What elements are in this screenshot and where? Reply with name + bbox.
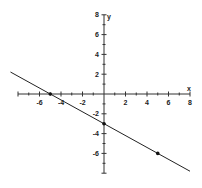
x-tick-label: 8 [188, 99, 192, 106]
x-tick-label: -6 [36, 99, 42, 106]
axes [18, 15, 190, 173]
coordinate-plane: -6-4-224688642-2-4-6 x y [0, 0, 202, 188]
y-tick-label: -6 [93, 150, 99, 157]
y-tick-label: -4 [93, 130, 99, 137]
x-axis-label: x [187, 85, 191, 92]
data-point [48, 92, 52, 96]
data-point [102, 122, 106, 126]
y-axis-label: y [107, 13, 111, 21]
x-tick-label: 4 [145, 99, 149, 106]
x-tick-label: -2 [79, 99, 85, 106]
y-tick-label: 4 [95, 51, 99, 58]
y-tick-label: -2 [93, 110, 99, 117]
y-tick-label: 2 [95, 71, 99, 78]
y-tick-label: 8 [95, 11, 99, 18]
line-series [10, 72, 190, 171]
x-tick-label: 2 [124, 99, 128, 106]
data-point [156, 152, 160, 156]
x-tick-label: 6 [167, 99, 171, 106]
y-tick-label: 6 [95, 31, 99, 38]
plotted-line [10, 72, 190, 171]
tick-labels: -6-4-224688642-2-4-6 [36, 11, 192, 157]
